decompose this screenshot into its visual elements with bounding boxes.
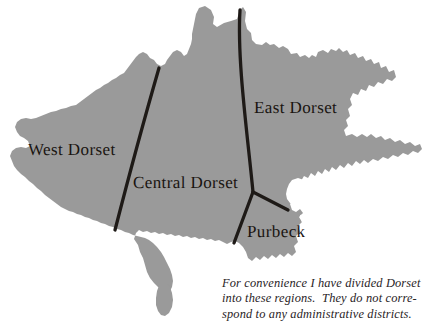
caption-line-3: spond to any administrative districts. [222, 307, 422, 322]
region-label-west-dorset: West Dorset [28, 140, 116, 160]
caption-line-2: into these regions. They do not corre- [222, 291, 422, 306]
map-figure: West Dorset Central Dorset East Dorset P… [0, 0, 423, 335]
region-label-purbeck: Purbeck [247, 222, 306, 242]
region-label-east-dorset: East Dorset [254, 98, 337, 118]
region-label-central-dorset: Central Dorset [133, 173, 238, 193]
caption-line-1: For convenience I have divided Dorset [222, 276, 422, 291]
map-caption: For convenience I have divided Dorset in… [222, 276, 422, 322]
poole-harbour-inlet [286, 178, 334, 207]
